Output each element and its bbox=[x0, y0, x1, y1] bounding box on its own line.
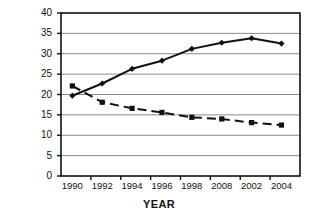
y-tick-label: 30 bbox=[30, 49, 52, 59]
y-tick-label: 25 bbox=[30, 69, 52, 79]
data-point-falling-series bbox=[279, 122, 284, 127]
series-line-rising-series bbox=[72, 38, 281, 95]
y-tick-label: 15 bbox=[30, 110, 52, 120]
data-point-rising-series bbox=[219, 40, 225, 46]
data-point-falling-series bbox=[189, 115, 194, 120]
data-point-rising-series bbox=[159, 58, 165, 64]
data-point-rising-series bbox=[69, 93, 75, 99]
data-point-rising-series bbox=[189, 46, 195, 52]
data-point-falling-series bbox=[130, 106, 135, 111]
data-point-rising-series bbox=[278, 40, 284, 46]
data-point-falling-series bbox=[70, 83, 75, 88]
y-tick-label: 0 bbox=[30, 171, 52, 181]
data-point-falling-series bbox=[249, 120, 254, 125]
y-tick-label: 40 bbox=[30, 8, 52, 18]
data-point-rising-series bbox=[249, 35, 255, 41]
series-line-falling-series bbox=[72, 86, 281, 125]
y-tick-label: 20 bbox=[30, 90, 52, 100]
data-point-falling-series bbox=[219, 116, 224, 121]
data-point-falling-series bbox=[100, 100, 105, 105]
x-tick-label: 2004 bbox=[264, 181, 298, 191]
y-tick-label: 5 bbox=[30, 151, 52, 161]
data-point-falling-series bbox=[159, 110, 164, 115]
x-axis-title: YEAR bbox=[0, 198, 318, 210]
y-tick-label: 35 bbox=[30, 28, 52, 38]
chart-figure: PREVALENCE (%) YEAR 0510152025303540 199… bbox=[0, 0, 318, 224]
y-tick-label: 10 bbox=[30, 130, 52, 140]
